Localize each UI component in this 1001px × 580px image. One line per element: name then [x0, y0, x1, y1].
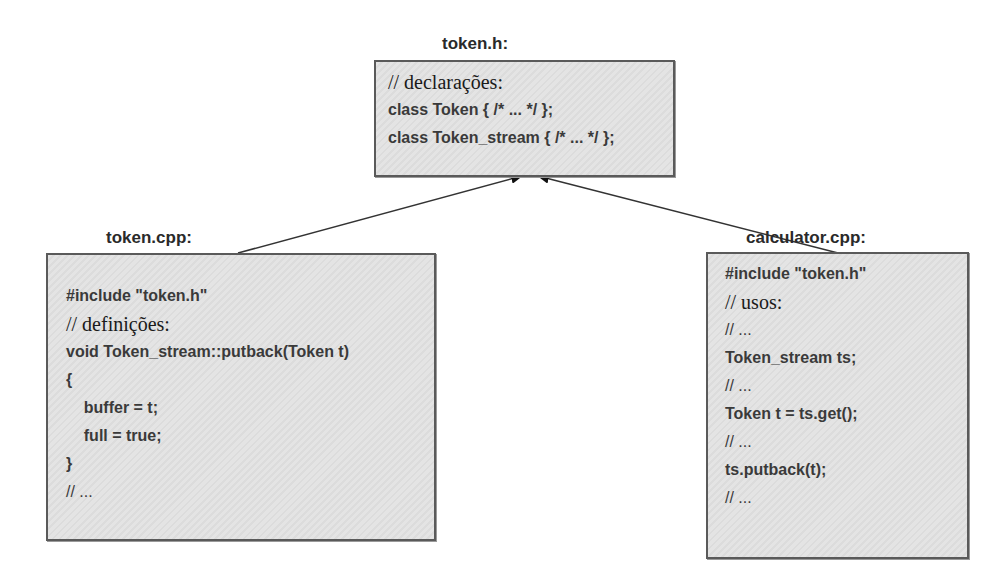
- code-line: buffer = t;: [66, 394, 434, 422]
- code-line: full = true;: [66, 422, 434, 450]
- code-line: Token t = ts.get();: [725, 400, 967, 428]
- code-line: // definições:: [66, 310, 434, 338]
- token-cpp-label: token.cpp:: [106, 228, 192, 248]
- code-line: // ...: [725, 372, 967, 400]
- token-cpp-code: #include "token.h"// definições:void Tok…: [66, 282, 434, 506]
- code-line: class Token { /* ... */ };: [388, 96, 673, 124]
- code-line: // ...: [725, 428, 967, 456]
- code-line: Token_stream ts;: [725, 344, 967, 372]
- token-h-label: token.h:: [442, 34, 508, 54]
- token-h-box: // declarações:class Token { /* ... */ }…: [374, 60, 675, 177]
- code-line: {: [66, 366, 434, 394]
- code-line: #include "token.h": [66, 282, 434, 310]
- code-line: #include "token.h": [725, 260, 967, 288]
- calculator-cpp-code: #include "token.h"// usos:// ...Token_st…: [725, 260, 967, 512]
- arrow-token-cpp-to-token-h: [238, 176, 522, 253]
- token-h-code: // declarações:class Token { /* ... */ }…: [388, 68, 673, 152]
- code-line: ts.putback(t);: [725, 456, 967, 484]
- calculator-cpp-label: calculator.cpp:: [746, 228, 866, 248]
- code-line: // declarações:: [388, 68, 673, 96]
- code-line: // ...: [66, 478, 434, 506]
- code-line: // ...: [725, 316, 967, 344]
- code-line: class Token_stream { /* ... */ };: [388, 124, 673, 152]
- token-cpp-box: #include "token.h"// definições:void Tok…: [46, 253, 436, 541]
- code-line: // ...: [725, 484, 967, 512]
- calculator-cpp-box: #include "token.h"// usos:// ...Token_st…: [706, 252, 969, 559]
- code-line: }: [66, 450, 434, 478]
- code-line: void Token_stream::putback(Token t): [66, 338, 434, 366]
- code-line: // usos:: [725, 288, 967, 316]
